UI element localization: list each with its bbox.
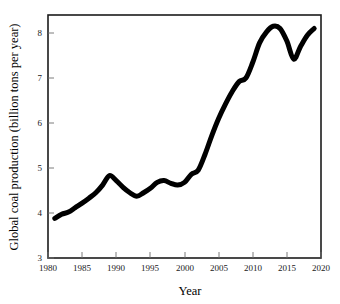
chart-canvas: 8 7 6 5 4 3 1980 1985 1990 1995 2000 200… (0, 0, 340, 304)
x-tick-label-2015: 2015 (278, 263, 297, 273)
x-tick-label-2020: 2020 (312, 263, 331, 273)
x-tick-marks (48, 252, 321, 258)
x-axis-tick-labels: 1980 1985 1990 1995 2000 2005 2010 2015 … (39, 263, 331, 273)
y-tick-label-5: 5 (38, 163, 43, 173)
x-tick-label-2000: 2000 (176, 263, 195, 273)
y-tick-label-8: 8 (38, 28, 43, 38)
y-tick-marks (48, 33, 54, 258)
y-tick-label-3: 3 (38, 253, 43, 263)
y-tick-label-4: 4 (38, 208, 43, 218)
x-tick-label-1985: 1985 (73, 263, 92, 273)
plot-frame (48, 15, 321, 258)
y-tick-label-7: 7 (38, 73, 43, 83)
coal-production-chart: 8 7 6 5 4 3 1980 1985 1990 1995 2000 200… (0, 0, 340, 304)
x-tick-label-1990: 1990 (107, 263, 126, 273)
y-axis-tick-labels: 8 7 6 5 4 3 (38, 28, 43, 263)
y-axis-title: Global coal production (billion tons per… (7, 23, 21, 250)
x-tick-label-1995: 1995 (141, 263, 160, 273)
x-tick-label-2005: 2005 (210, 263, 229, 273)
data-series-line (55, 26, 314, 218)
y-tick-label-6: 6 (38, 118, 43, 128)
x-tick-label-2010: 2010 (244, 263, 263, 273)
x-tick-label-1980: 1980 (39, 263, 58, 273)
x-axis-title: Year (178, 284, 202, 298)
